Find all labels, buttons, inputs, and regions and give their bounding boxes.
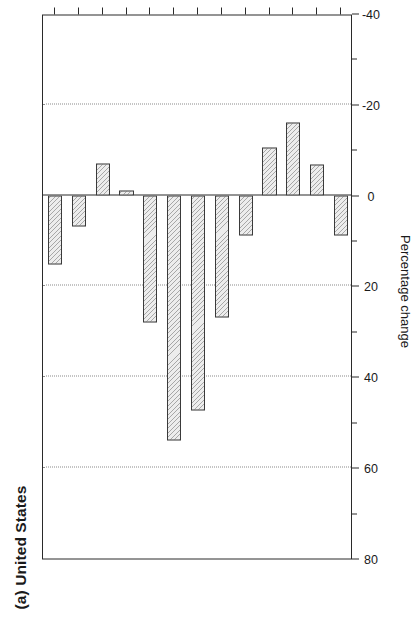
- bar-15-19: [334, 195, 348, 236]
- y-axis-title: Percentage change: [398, 235, 413, 348]
- bar-30-34: [262, 147, 276, 195]
- x-axis-tick: [245, 7, 246, 14]
- plot-area: [42, 14, 352, 559]
- y-axis-tick: [352, 376, 359, 377]
- x-axis-tick: [149, 7, 150, 14]
- bar-40-44: [215, 195, 229, 318]
- y-axis-minor-tick: [352, 58, 357, 59]
- x-axis-tick: [173, 7, 174, 14]
- gridline: [43, 103, 351, 104]
- x-axis-tick: [316, 7, 317, 14]
- bar-75+: [48, 195, 62, 265]
- y-axis-tick: [352, 13, 359, 14]
- x-axis-tick: [102, 7, 103, 14]
- y-axis-tick-label: 20: [364, 280, 378, 294]
- y-axis-tick-label: -40: [362, 7, 380, 21]
- x-axis-tick: [269, 7, 270, 14]
- y-axis-tick: [352, 467, 359, 468]
- y-axis-tick-label: 40: [364, 370, 378, 384]
- bar-25-29: [286, 122, 300, 195]
- bar-50-54: [167, 195, 181, 440]
- bar-35-39: [239, 195, 253, 236]
- bar-45-49: [191, 195, 205, 411]
- y-axis-tick-label: -20: [362, 98, 380, 112]
- y-axis-minor-tick: [352, 422, 357, 423]
- page-title: (a) United States: [12, 485, 30, 609]
- y-axis-minor-tick: [352, 240, 357, 241]
- y-axis-tick: [352, 558, 359, 559]
- x-axis-tick: [126, 7, 127, 14]
- y-axis-tick-label: 60: [364, 461, 378, 475]
- x-axis-tick: [78, 7, 79, 14]
- y-axis-minor-tick: [352, 149, 357, 150]
- gridline: [43, 466, 351, 467]
- bar-20-24: [310, 164, 324, 194]
- x-axis-tick: [292, 7, 293, 14]
- y-axis-minor-tick: [352, 331, 357, 332]
- plot-inner: [43, 15, 351, 558]
- y-axis-tick-label: 80: [364, 552, 378, 566]
- y-axis-minor-tick: [352, 513, 357, 514]
- x-axis-tick: [197, 7, 198, 14]
- x-axis-tick: [221, 7, 222, 14]
- x-axis-tick: [340, 7, 341, 14]
- y-axis-tick-label: 0: [368, 189, 375, 203]
- x-axis-tick: [54, 7, 55, 14]
- bar-65-69: [96, 163, 110, 195]
- y-axis-tick: [352, 286, 359, 287]
- bar-55-59: [143, 195, 157, 322]
- bar-60-64: [119, 190, 133, 195]
- y-axis-tick: [352, 195, 359, 196]
- bar-70-74: [72, 195, 86, 227]
- y-axis-tick: [352, 104, 359, 105]
